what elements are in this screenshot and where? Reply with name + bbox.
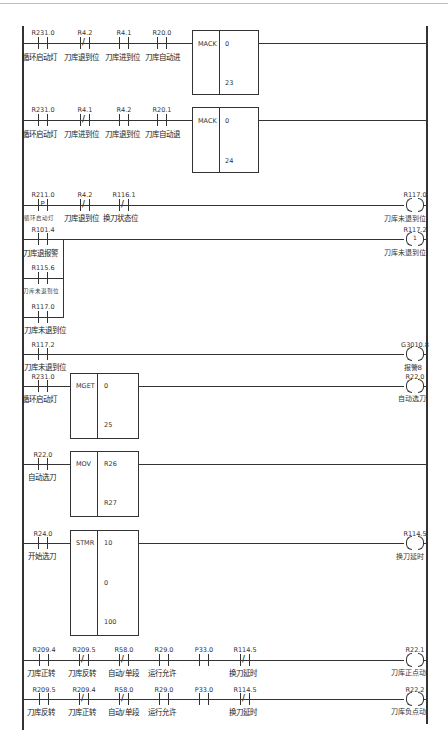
coil-label: 刀库正点动 bbox=[391, 667, 426, 677]
contact-label: 刀库退报警 bbox=[23, 247, 58, 258]
contact-label: 自动/单段 bbox=[108, 667, 139, 678]
coil-set[interactable]: 1 bbox=[404, 232, 426, 246]
top-border bbox=[0, 3, 448, 4]
contact-label: 循环启动灯 bbox=[22, 51, 57, 62]
function-param: 25 bbox=[104, 421, 112, 429]
contact-label: 运行允许 bbox=[148, 667, 176, 678]
contact-address: R231.0 bbox=[31, 29, 54, 37]
contact-address: R58.0 bbox=[115, 646, 134, 654]
contact-no[interactable] bbox=[194, 654, 214, 666]
contact-no[interactable] bbox=[33, 311, 53, 323]
contact-no[interactable] bbox=[152, 114, 172, 126]
contact-no[interactable] bbox=[33, 348, 53, 360]
contact-no[interactable] bbox=[154, 693, 174, 705]
contact-nc[interactable]: / bbox=[75, 199, 95, 211]
contact-no[interactable] bbox=[114, 114, 134, 126]
contact-nc[interactable]: / bbox=[114, 654, 134, 666]
function-block-stmr[interactable]: STMR 10 0 100 bbox=[70, 530, 139, 636]
right-power-rail bbox=[426, 26, 428, 724]
contact-no[interactable] bbox=[33, 233, 53, 245]
contact-nc[interactable]: / bbox=[235, 654, 255, 666]
contact-label: 换刀延时 bbox=[229, 706, 257, 717]
contact-address: R231.0 bbox=[31, 106, 54, 114]
contact-label: 刀库未退到位 bbox=[24, 324, 66, 335]
coil-label: 换刀延时 bbox=[396, 551, 424, 561]
contact-label: 刀库进到位 bbox=[105, 51, 140, 62]
coil-output[interactable] bbox=[404, 347, 426, 361]
contact-address: R4.2 bbox=[117, 106, 132, 114]
contact-address: R209.4 bbox=[32, 646, 55, 654]
function-param: 0 bbox=[104, 579, 108, 587]
contact-no[interactable] bbox=[34, 693, 54, 705]
function-param: R27 bbox=[104, 499, 117, 507]
contact-label: 刀库未退到位 bbox=[24, 361, 66, 372]
contact-address: R4.1 bbox=[78, 106, 93, 114]
function-name: MACK bbox=[198, 40, 217, 48]
contact-nc[interactable]: / bbox=[114, 693, 134, 705]
contact-label: 刀库退到位 bbox=[64, 212, 99, 223]
contact-no[interactable] bbox=[33, 380, 53, 392]
contact-no[interactable] bbox=[34, 654, 54, 666]
function-block-mack[interactable]: MACK 0 24 bbox=[192, 107, 259, 173]
contact-no[interactable] bbox=[33, 114, 53, 126]
function-block-mov[interactable]: MOV R26 R27 bbox=[70, 451, 139, 517]
contact-label: 换刀延时 bbox=[229, 667, 257, 678]
coil-output[interactable] bbox=[404, 198, 426, 212]
coil-label: 报警8 bbox=[404, 362, 422, 372]
contact-address: R4.1 bbox=[117, 29, 132, 37]
contact-no[interactable] bbox=[33, 272, 53, 284]
function-param: 23 bbox=[225, 79, 233, 87]
function-name: MACK bbox=[198, 117, 217, 125]
function-name: MOV bbox=[76, 460, 91, 468]
contact-label: 自动/单段 bbox=[108, 706, 139, 717]
coil-output[interactable] bbox=[404, 692, 426, 706]
contact-label: 换刀状态位 bbox=[103, 212, 138, 223]
contact-label: 刀库退到位 bbox=[105, 128, 140, 139]
function-param: 0 bbox=[104, 382, 108, 390]
contact-label: 刀库进到位 bbox=[64, 128, 99, 139]
contact-nc[interactable]: / bbox=[235, 693, 255, 705]
contact-address: R117.0 bbox=[31, 303, 54, 311]
contact-address: P33.0 bbox=[195, 646, 213, 654]
contact-no[interactable] bbox=[154, 654, 174, 666]
contact-no[interactable] bbox=[33, 458, 53, 470]
coil-label: 刀库负点动 bbox=[391, 706, 426, 716]
coil-label: 刀库未退到位 bbox=[384, 247, 426, 257]
contact-nc[interactable]: / bbox=[114, 199, 134, 211]
contact-pulse[interactable]: P bbox=[33, 199, 53, 211]
contact-label: 刀库自动退 bbox=[145, 128, 180, 139]
contact-address: R114.5 bbox=[233, 646, 256, 654]
contact-label: 刀库自动进 bbox=[145, 51, 180, 62]
function-param: R26 bbox=[104, 460, 117, 468]
function-param: 0 bbox=[225, 40, 229, 48]
contact-nc[interactable]: / bbox=[74, 654, 94, 666]
contact-address: R4.2 bbox=[78, 29, 93, 37]
coil-output[interactable] bbox=[404, 653, 426, 667]
function-block-mack[interactable]: MACK 0 23 bbox=[192, 30, 259, 95]
contact-no[interactable] bbox=[33, 537, 53, 549]
contact-no[interactable] bbox=[33, 37, 53, 49]
contact-address: R211.0 bbox=[31, 191, 54, 199]
contact-no[interactable] bbox=[194, 693, 214, 705]
contact-label: 循环启动灯 bbox=[24, 214, 54, 222]
function-block-mget[interactable]: MGET 0 25 bbox=[70, 373, 139, 439]
contact-address: R209.5 bbox=[72, 646, 95, 654]
contact-nc[interactable]: / bbox=[74, 693, 94, 705]
contact-no[interactable] bbox=[152, 37, 172, 49]
contact-label: 刀库反转 bbox=[68, 667, 96, 678]
pulse-mark: P bbox=[41, 200, 45, 208]
coil-output[interactable] bbox=[404, 536, 426, 550]
contact-nc[interactable]: / bbox=[75, 37, 95, 49]
contact-label: 刀库正转 bbox=[68, 706, 96, 717]
coil-label: 自动选刀 bbox=[398, 393, 426, 403]
coil-output[interactable] bbox=[404, 379, 426, 393]
contact-no[interactable] bbox=[114, 37, 134, 49]
contact-nc[interactable]: / bbox=[75, 114, 95, 126]
function-param: 100 bbox=[104, 618, 116, 626]
contact-address: R115.6 bbox=[31, 264, 54, 272]
function-name: STMR bbox=[76, 539, 94, 547]
contact-label: 循环启动灯 bbox=[22, 128, 57, 139]
coil-mark: 1 bbox=[404, 234, 426, 241]
contact-address: R20.0 bbox=[153, 29, 172, 37]
contact-label: 运行允许 bbox=[148, 706, 176, 717]
